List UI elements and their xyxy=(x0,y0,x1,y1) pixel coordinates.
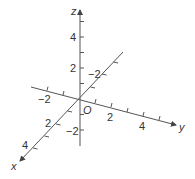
y-tick-label-2: 2 xyxy=(107,111,113,123)
y-axis-label: y xyxy=(178,121,186,133)
y-tick-label-4: 4 xyxy=(139,120,145,132)
y-axis xyxy=(31,87,176,125)
z-axis-label: z xyxy=(70,5,77,17)
z-axis xyxy=(80,10,84,146)
z-tick-label-neg2: −2 xyxy=(66,125,79,137)
z-tick-label-4: 4 xyxy=(70,31,76,43)
axes-diagram: z y x O 4 2 −2 −2 2 4 2 4 −2 xyxy=(0,0,195,179)
origin-label: O xyxy=(83,104,92,116)
x-tick-label-4: 4 xyxy=(22,139,28,151)
x-back-tick-label-neg2: −2 xyxy=(88,68,101,80)
z-tick-label-2: 2 xyxy=(70,62,76,74)
x-axis-label: x xyxy=(10,160,17,172)
y-tick-label-neg2: −2 xyxy=(38,93,51,105)
x-tick-label-2: 2 xyxy=(45,117,51,129)
